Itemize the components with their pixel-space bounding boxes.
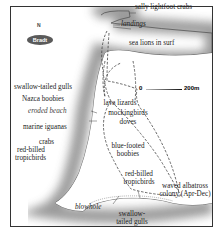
label-lava-lizards: lava lizards [88, 99, 152, 107]
scale-line [146, 89, 182, 90]
label-swallow-tailed-south-2: tailed gulls [110, 218, 154, 226]
label-crabs: crabs [39, 138, 54, 146]
label-blue-footed-2: boobies [106, 150, 150, 158]
label-nazca-boobies: Nazca boobies [22, 95, 64, 103]
label-mockingbirds: mockingbirds [96, 109, 160, 117]
scale-end: 200m [184, 85, 199, 91]
label-marine-iguanas: marine iguanas [23, 123, 67, 131]
publisher-badge: Bradt [27, 35, 53, 45]
label-red-billed-south-1: red-billed [117, 170, 161, 178]
label-doves: doves [96, 118, 160, 126]
compass-rose: N Bradt [25, 22, 55, 58]
north-label: N [37, 22, 41, 28]
label-swallow-tailed-south-1: swallow- [110, 210, 154, 218]
scale-start: 0 [139, 85, 142, 91]
label-blue-footed-1: blue-footed [106, 142, 150, 150]
label-sea-lions: sea lions in surf [129, 39, 174, 47]
label-landings: landings [121, 20, 146, 28]
label-swallow-tailed-gulls-north: swallow-tailed gulls [14, 83, 72, 91]
label-albatross-1: waved albatross [158, 182, 212, 190]
label-red-billed-south-2: tropicbirds [117, 178, 161, 186]
label-albatross-2: colony (Apr-Dec) [158, 190, 212, 198]
label-sally-lightfoot-crabs: sally lightfoot crabs [135, 3, 192, 11]
label-red-billed-west-2: tropicbirds [15, 154, 46, 162]
label-blowhole: blowhole [75, 203, 101, 211]
label-eroded-beach: eroded beach [28, 107, 67, 115]
label-red-billed-west-1: red-billed [17, 146, 45, 154]
